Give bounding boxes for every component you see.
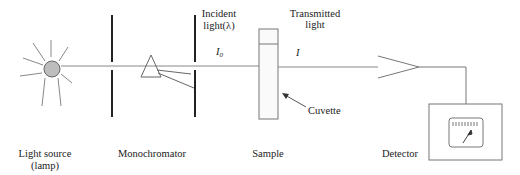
- detector-label: Detector: [382, 148, 419, 159]
- transmitted-intensity-symbol: I: [295, 47, 300, 58]
- incident-light-label-line1: Incident: [202, 8, 236, 19]
- sample-label: Sample: [252, 148, 284, 159]
- incident-light-label-line2: light(λ): [203, 20, 235, 32]
- detector-meter-icon: [429, 104, 502, 160]
- transmitted-light-label-line1: Transmitted: [290, 8, 341, 19]
- monochromator-label: Monochromator: [118, 148, 187, 159]
- cuvette-label: Cuvette: [308, 105, 341, 116]
- transmitted-light-label-line2: light: [305, 19, 324, 30]
- cuvette-arrow-icon: [282, 93, 306, 107]
- light-source-icon: [20, 40, 72, 106]
- light-source-label-line2: (lamp): [31, 160, 59, 172]
- spectrophotometer-diagram: Incident light(λ) I0 Transmitted light I…: [0, 0, 520, 175]
- incident-intensity-symbol: I0: [215, 46, 224, 59]
- cuvette-icon: [259, 29, 278, 119]
- prism-icon: [141, 55, 194, 88]
- detector-lens-icon: [378, 56, 466, 104]
- light-source-label-line1: Light source: [19, 148, 72, 159]
